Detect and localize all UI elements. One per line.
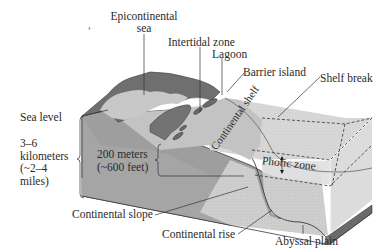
label-continental-rise: Continental rise	[162, 228, 235, 240]
label-depth-200m: 200 meters (~600 feet)	[97, 148, 148, 173]
label-depth-km-line4: miles)	[20, 175, 69, 188]
label-sea-level: Sea level	[20, 111, 62, 123]
label-lagoon: Lagoon	[212, 48, 247, 60]
label-depth-km-line1: 3–6	[20, 137, 69, 150]
label-intertidal-zone: Intertidal zone	[168, 36, 235, 48]
label-depth-km: 3–6 kilometers (~2–4 miles)	[20, 137, 69, 187]
label-abyssal-plain: Abyssal plain	[275, 235, 338, 247]
label-depth-km-line3: (~2–4	[20, 162, 69, 175]
label-continental-slope: Continental slope	[72, 208, 153, 220]
label-depth-200m-line1: 200 meters	[97, 148, 148, 161]
continental-margin-diagram: › Epicontinental sea Intertidal zone Lag…	[0, 0, 392, 252]
label-epicontinental-line2: sea	[108, 22, 180, 34]
label-epicontinental-line1: Epicontinental	[108, 10, 180, 22]
label-depth-200m-line2: (~600 feet)	[97, 161, 148, 174]
label-depth-km-line2: kilometers	[20, 150, 69, 163]
label-barrier-island: Barrier island	[243, 66, 306, 78]
label-shelf-break: Shelf break	[320, 72, 373, 84]
label-epicontinental-sea: Epicontinental sea	[108, 10, 180, 34]
stray-mark: ›	[88, 22, 91, 34]
